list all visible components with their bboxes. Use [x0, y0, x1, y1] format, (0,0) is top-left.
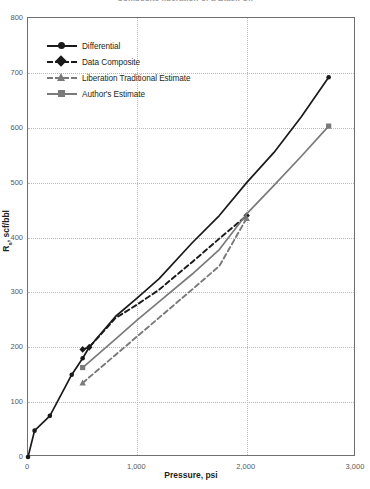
triangle-marker-icon — [47, 72, 77, 84]
y-axis-title: Rs, scf/bbl — [1, 191, 13, 271]
square-marker-icon — [47, 88, 77, 100]
circle-marker-icon — [47, 40, 77, 52]
y-axis-title-subscript: s — [7, 242, 13, 245]
legend-item-authors-estimate: Author's Estimate — [47, 86, 267, 102]
x-axis-title: Pressure, psi — [27, 470, 355, 480]
y-tick-600: 600 — [0, 123, 23, 132]
y-tick-700: 700 — [0, 68, 23, 77]
y-tick-300: 300 — [0, 287, 23, 296]
legend-item-differential: Differential — [47, 38, 267, 54]
legend-item-liberation-traditional-estimate: Liberation Traditional Estimate — [47, 70, 267, 86]
legend-label-liberation-traditional-estimate: Liberation Traditional Estimate — [82, 74, 191, 83]
legend-item-data-composite: Data Composite — [47, 54, 267, 70]
y-axis-title-units: , scf/bbl — [1, 210, 11, 242]
legend-label-authors-estimate: Author's Estimate — [82, 90, 145, 99]
chart-root: Composite liberation of a Black Oil 800 … — [0, 0, 370, 489]
diamond-marker-icon — [47, 56, 77, 68]
y-tick-100: 100 — [0, 397, 23, 406]
y-tick-0: 0 — [0, 452, 23, 461]
legend-label-data-composite: Data Composite — [82, 58, 140, 67]
y-tick-500: 500 — [0, 178, 23, 187]
y-axis-title-text: R — [1, 246, 11, 252]
chart-legend: Differential Data Composite Liberation T… — [47, 38, 267, 102]
legend-label-differential: Differential — [82, 42, 120, 51]
y-tick-800: 800 — [0, 13, 23, 22]
y-tick-200: 200 — [0, 342, 23, 351]
